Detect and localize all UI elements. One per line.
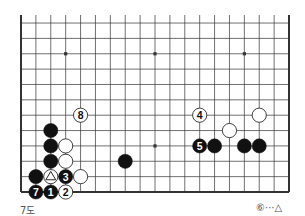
- white-stone: [59, 154, 73, 168]
- move-number: 2: [63, 186, 69, 198]
- white-stone: [73, 170, 87, 184]
- white-stone: [59, 139, 73, 153]
- star-point: [243, 52, 246, 55]
- black-stone: [118, 154, 132, 168]
- move-number: 5: [197, 140, 203, 152]
- black-stone: [207, 139, 221, 153]
- black-stone: [44, 123, 58, 137]
- black-stone: [44, 139, 58, 153]
- move-number: 4: [197, 109, 203, 121]
- move-number: 1: [48, 186, 54, 198]
- star-point: [64, 52, 67, 55]
- go-board: 3712845: [0, 0, 305, 200]
- black-stone: [252, 139, 266, 153]
- white-stone: [252, 108, 266, 122]
- black-stone: 3: [59, 170, 73, 184]
- black-stone: [44, 154, 58, 168]
- diagram-caption: 7도: [20, 202, 34, 216]
- black-stone: 7: [29, 185, 43, 199]
- move-note: ⑥···△: [256, 202, 282, 213]
- star-point: [153, 144, 156, 147]
- white-stone: 8: [73, 108, 87, 122]
- star-point: [153, 52, 156, 55]
- black-stone: [237, 139, 251, 153]
- black-stone: 5: [193, 139, 207, 153]
- white-stone: [44, 170, 58, 184]
- black-stone: [29, 170, 43, 184]
- stones-layer: 3712845: [29, 108, 267, 199]
- black-stone: 1: [44, 185, 58, 199]
- move-number: 3: [63, 171, 69, 183]
- move-number: 7: [33, 186, 39, 198]
- white-stone: 4: [193, 108, 207, 122]
- white-stone: [222, 123, 236, 137]
- white-stone: 2: [59, 185, 73, 199]
- move-number: 8: [78, 109, 84, 121]
